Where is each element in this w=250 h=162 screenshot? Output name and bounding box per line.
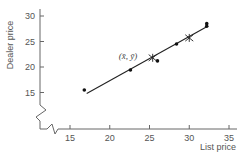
y-axis-title: Dealer price [5,21,15,70]
data-point [175,42,179,46]
x-tick-label: 20 [105,133,115,143]
y-tick-label: 15 [25,88,35,98]
mean-point-label: (x̄, ȳ) [119,51,137,61]
x-axis: 1520253035 [40,124,237,143]
x-tick-label: 25 [144,133,154,143]
x-axis-title: List price [200,142,236,152]
regression-line [87,27,207,94]
y-tick-label: 20 [25,62,35,72]
x-tick-label: 15 [65,133,75,143]
y-axis: 15202530 [25,9,46,129]
data-point [83,88,87,92]
y-tick-label: 25 [25,37,35,47]
data-point [129,68,133,72]
x-tick-label: 30 [184,133,194,143]
data-points [83,22,209,92]
y-tick-label: 30 [25,11,35,21]
data-point [205,24,209,28]
scatter-chart: 15202530 1520253035 Dealer price List pr… [0,0,250,162]
